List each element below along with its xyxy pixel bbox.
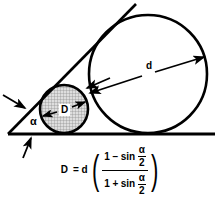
- geometry-diagram: [0, 0, 221, 199]
- pointer-to-baseline-arrow: [23, 138, 31, 158]
- figure-container: d D α D = d ( 1 − sin α 2: [0, 0, 221, 199]
- pointer-to-incline-arrow: [3, 95, 25, 108]
- small-circle: [40, 85, 88, 133]
